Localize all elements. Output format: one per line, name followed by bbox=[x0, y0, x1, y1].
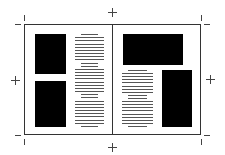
registration-mark-top-v bbox=[112, 8, 113, 17]
image-bottom-left bbox=[35, 81, 66, 127]
text-line bbox=[75, 104, 104, 105]
text-line bbox=[75, 47, 104, 48]
text-line bbox=[75, 75, 104, 76]
crop-mark-tr-v bbox=[201, 15, 202, 21]
text-line bbox=[122, 86, 153, 87]
text-line bbox=[75, 78, 104, 79]
text-line bbox=[81, 34, 98, 35]
registration-mark-left-v bbox=[15, 76, 16, 85]
crop-mark-br-v bbox=[201, 139, 202, 145]
text-line bbox=[122, 114, 153, 115]
text-line bbox=[75, 44, 104, 45]
text-line bbox=[122, 123, 153, 124]
center-fold-line bbox=[112, 24, 113, 135]
text-line bbox=[81, 94, 98, 95]
text-line bbox=[122, 89, 153, 90]
text-line bbox=[128, 70, 147, 71]
text-line bbox=[122, 79, 153, 80]
registration-mark-right-v bbox=[210, 75, 211, 84]
text-line bbox=[75, 85, 104, 86]
image-bottom-right bbox=[162, 70, 192, 127]
crop-mark-tl-h bbox=[15, 24, 21, 25]
text-line bbox=[128, 126, 147, 127]
text-line bbox=[75, 88, 104, 89]
text-line bbox=[75, 59, 104, 60]
text-line bbox=[75, 37, 104, 38]
text-line bbox=[75, 40, 104, 41]
text-column-right bbox=[122, 70, 153, 127]
text-line bbox=[122, 82, 153, 83]
crop-mark-tl-v bbox=[24, 15, 25, 21]
text-line bbox=[122, 107, 153, 108]
crop-mark-bl-v bbox=[24, 139, 25, 145]
text-line bbox=[122, 76, 153, 77]
text-line bbox=[75, 91, 104, 92]
text-line bbox=[75, 56, 104, 57]
text-line bbox=[75, 50, 104, 51]
text-line bbox=[122, 120, 153, 121]
image-top-right bbox=[123, 34, 183, 65]
text-line bbox=[81, 126, 98, 127]
text-line bbox=[75, 82, 104, 83]
text-line bbox=[122, 110, 153, 111]
text-line bbox=[122, 73, 153, 74]
text-line bbox=[75, 123, 104, 124]
text-line bbox=[81, 63, 98, 64]
text-line bbox=[75, 120, 104, 121]
text-line bbox=[128, 98, 147, 99]
crop-mark-tr-h bbox=[204, 24, 210, 25]
text-line bbox=[81, 97, 98, 98]
text-line bbox=[122, 101, 153, 102]
text-line bbox=[75, 113, 104, 114]
image-top-left bbox=[35, 34, 66, 74]
text-line bbox=[75, 53, 104, 54]
text-line bbox=[75, 107, 104, 108]
text-line bbox=[122, 104, 153, 105]
crop-mark-bl-h bbox=[15, 135, 21, 136]
text-line bbox=[75, 116, 104, 117]
text-line bbox=[75, 72, 104, 73]
text-line bbox=[122, 92, 153, 93]
text-line bbox=[75, 110, 104, 111]
text-line bbox=[81, 66, 98, 67]
text-line bbox=[75, 69, 104, 70]
crop-mark-br-h bbox=[204, 135, 210, 136]
text-line bbox=[122, 117, 153, 118]
registration-mark-bottom-v bbox=[112, 143, 113, 152]
text-line bbox=[128, 95, 147, 96]
text-line bbox=[75, 101, 104, 102]
text-column-left bbox=[75, 34, 104, 127]
